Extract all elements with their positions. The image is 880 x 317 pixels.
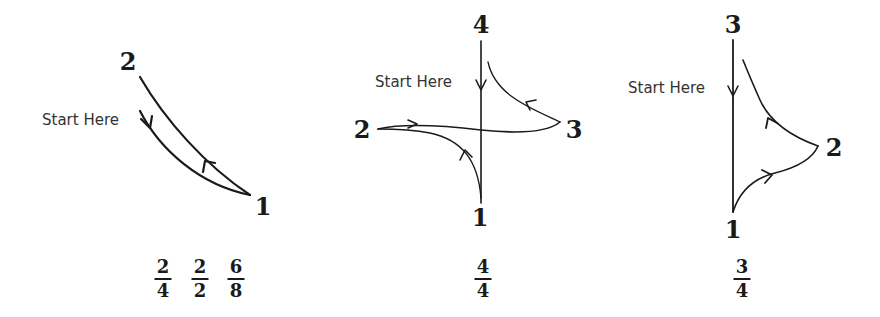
time-signature: 2 4 [155, 258, 172, 300]
beat-label-3: 3 [725, 13, 742, 37]
beat-label-3: 3 [566, 118, 583, 142]
time-signature: 6 8 [228, 258, 245, 300]
beat-label-1: 1 [725, 218, 742, 242]
arrow-right-icon [408, 120, 417, 128]
beat-1-to-2-path [378, 129, 481, 198]
three-beat-pattern-paths [728, 40, 818, 212]
four-beat-pattern-paths [378, 41, 560, 203]
conducting-patterns-figure: 2 1 Start Here 4 2 3 1 Start Here 3 2 1 … [0, 0, 880, 317]
beat-2-to-3-path [743, 60, 818, 146]
beat-label-1: 1 [472, 206, 489, 230]
start-here-label: Start Here [628, 81, 705, 96]
start-here-label: Start Here [375, 75, 452, 90]
time-signature-bottom: 4 [157, 282, 170, 300]
time-signature-top: 4 [477, 258, 490, 276]
time-signature: 3 4 [734, 258, 751, 300]
time-signature-top: 3 [736, 258, 749, 276]
time-signature-top: 6 [230, 258, 243, 276]
beat-label-2: 2 [826, 136, 843, 160]
arrow-up-left-icon [766, 118, 777, 128]
time-signature-top: 2 [194, 258, 207, 276]
time-signature-bottom: 4 [477, 282, 490, 300]
beat-label-1: 1 [255, 195, 272, 219]
time-signature-top: 2 [157, 258, 170, 276]
time-signature-bottom: 8 [230, 282, 243, 300]
beat-3-to-4-path [488, 62, 560, 122]
beat-label-2: 2 [120, 50, 137, 74]
two-beat-pattern-paths [140, 77, 250, 195]
beat-label-2: 2 [354, 118, 371, 142]
time-signature-bottom: 2 [194, 282, 207, 300]
beat-label-4: 4 [473, 13, 490, 37]
time-signature: 2 2 [192, 258, 209, 300]
start-here-label: Start Here [42, 113, 119, 128]
time-signature: 4 4 [475, 258, 492, 300]
time-signature-bottom: 4 [736, 282, 749, 300]
beat-1-to-2-path [733, 146, 818, 212]
